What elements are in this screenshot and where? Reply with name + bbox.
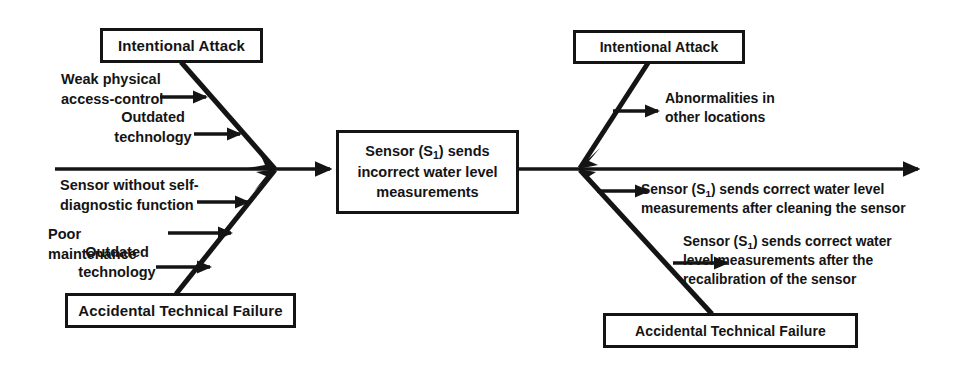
- bone-right-top: [580, 63, 648, 168]
- category-box-left-bottom[interactable]: Accidental Technical Failure: [65, 293, 296, 328]
- category-box-left-top[interactable]: Intentional Attack: [100, 28, 263, 63]
- category-box-right-top[interactable]: Intentional Attack: [573, 30, 745, 64]
- effect-line-3: measurements: [376, 182, 478, 203]
- effect-label-abnormalities-in-other-locations: Abnormalities in other locations: [665, 89, 795, 127]
- effect-label-correct-after-cleaning: Sensor (S1) sends correct water level me…: [641, 181, 951, 219]
- effect-label-correct-after-recalibration: Sensor (S1) sends correct water level me…: [683, 233, 948, 289]
- effect-line-1: Sensor (S1) sends: [365, 141, 489, 162]
- category-label-left-top: Intentional Attack: [118, 37, 245, 54]
- cause-label-weak-physical-access-control: Weak physical access-control: [61, 70, 169, 109]
- category-box-right-bottom[interactable]: Accidental Technical Failure: [603, 313, 858, 348]
- effect-line-2: incorrect water level: [357, 162, 497, 183]
- bone-right-top-group: [578, 63, 658, 169]
- effect-box[interactable]: Sensor (S1) sends incorrect water level …: [336, 130, 519, 214]
- category-label-left-bottom: Accidental Technical Failure: [78, 302, 282, 319]
- fishbone-diagram: Intentional Attack Accidental Technical …: [0, 0, 972, 368]
- category-label-right-top: Intentional Attack: [600, 39, 719, 55]
- cause-label-sensor-without-self-diagnostic-function: Sensor without self- diagnostic function: [60, 176, 206, 215]
- cause-label-outdated-technology-top: Outdated technology: [108, 108, 198, 147]
- category-label-right-bottom: Accidental Technical Failure: [635, 323, 826, 339]
- cause-label-outdated-technology-bottom: Outdated technology: [72, 243, 162, 282]
